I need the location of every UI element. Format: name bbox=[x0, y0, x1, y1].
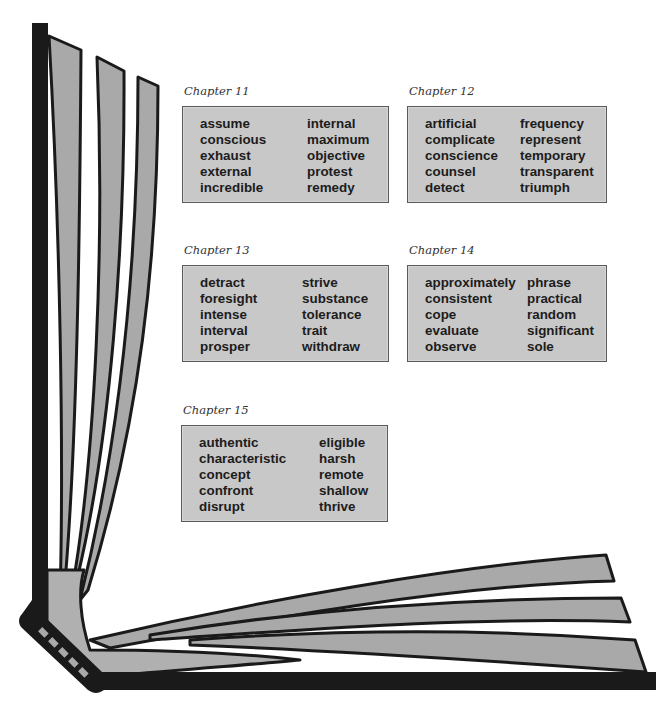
word-column-left: authentic characteristic concept confron… bbox=[199, 435, 286, 515]
vocab-word: authentic bbox=[199, 435, 286, 451]
vocab-word: trait bbox=[302, 323, 368, 339]
word-column-right: frequency represent temporary transparen… bbox=[520, 116, 594, 196]
vocab-word: exhaust bbox=[200, 148, 266, 164]
word-column-left: detract foresight intense interval prosp… bbox=[200, 275, 257, 355]
vocab-word: counsel bbox=[425, 164, 498, 180]
vocab-word: complicate bbox=[425, 132, 498, 148]
chapter-label: Chapter 14 bbox=[409, 243, 475, 257]
vocabulary-box: detract foresight intense interval prosp… bbox=[182, 265, 389, 362]
page-strand-left-1 bbox=[49, 36, 81, 600]
vocab-word: observe bbox=[425, 339, 516, 355]
word-column-right: internal maximum objective protest remed… bbox=[307, 116, 370, 196]
vocab-word: substance bbox=[302, 291, 368, 307]
vocab-word: foresight bbox=[200, 291, 257, 307]
page-strand-bottom-3 bbox=[190, 632, 646, 672]
vocab-word: remedy bbox=[307, 180, 370, 196]
vocab-word: harsh bbox=[319, 451, 368, 467]
vocab-word: external bbox=[200, 164, 266, 180]
vocab-word: strive bbox=[302, 275, 368, 291]
vocab-word: sole bbox=[527, 339, 594, 355]
vocab-word: temporary bbox=[520, 148, 594, 164]
vocabulary-box: approximately consistent cope evaluate o… bbox=[407, 265, 607, 362]
vocab-word: thrive bbox=[319, 499, 368, 515]
vocab-word: triumph bbox=[520, 180, 594, 196]
chapter-label: Chapter 12 bbox=[409, 84, 475, 98]
vocab-word: withdraw bbox=[302, 339, 368, 355]
vocab-word: intense bbox=[200, 307, 257, 323]
word-column-right: eligible harsh remote shallow thrive bbox=[319, 435, 368, 515]
vocab-word: cope bbox=[425, 307, 516, 323]
vocab-word: detract bbox=[200, 275, 257, 291]
vocab-word: frequency bbox=[520, 116, 594, 132]
chapter-label: Chapter 15 bbox=[183, 403, 249, 417]
chapter-label: Chapter 13 bbox=[184, 243, 250, 257]
chapter-label: Chapter 11 bbox=[184, 84, 250, 98]
vocab-word: represent bbox=[520, 132, 594, 148]
vocab-word: concept bbox=[199, 467, 286, 483]
vocab-word: conscience bbox=[425, 148, 498, 164]
vocab-word: assume bbox=[200, 116, 266, 132]
vocab-word: internal bbox=[307, 116, 370, 132]
vocab-word: incredible bbox=[200, 180, 266, 196]
vocab-word: maximum bbox=[307, 132, 370, 148]
vocab-word: phrase bbox=[527, 275, 594, 291]
word-column-left: artificial complicate conscience counsel… bbox=[425, 116, 498, 196]
vocab-word: significant bbox=[527, 323, 594, 339]
vocabulary-box: artificial complicate conscience counsel… bbox=[407, 106, 607, 203]
vocab-word: detect bbox=[425, 180, 498, 196]
vocab-word: transparent bbox=[520, 164, 594, 180]
vocab-word: eligible bbox=[319, 435, 368, 451]
word-column-left: assume conscious exhaust external incred… bbox=[200, 116, 266, 196]
vocabulary-box: authentic characteristic concept confron… bbox=[181, 425, 388, 522]
word-column-right: strive substance tolerance trait withdra… bbox=[302, 275, 368, 355]
vocab-word: shallow bbox=[319, 483, 368, 499]
vocab-word: confront bbox=[199, 483, 286, 499]
vocab-word: objective bbox=[307, 148, 370, 164]
vocab-word: disrupt bbox=[199, 499, 286, 515]
word-column-left: approximately consistent cope evaluate o… bbox=[425, 275, 516, 355]
vocab-word: conscious bbox=[200, 132, 266, 148]
vocab-word: consistent bbox=[425, 291, 516, 307]
vocab-word: tolerance bbox=[302, 307, 368, 323]
vocab-word: protest bbox=[307, 164, 370, 180]
vocab-word: evaluate bbox=[425, 323, 516, 339]
vocab-word: remote bbox=[319, 467, 368, 483]
vocab-word: approximately bbox=[425, 275, 516, 291]
word-column-right: phrase practical random significant sole bbox=[527, 275, 594, 355]
vocab-word: artificial bbox=[425, 116, 498, 132]
vocab-word: random bbox=[527, 307, 594, 323]
vocab-word: interval bbox=[200, 323, 257, 339]
vocabulary-box: assume conscious exhaust external incred… bbox=[182, 106, 389, 203]
vocab-word: practical bbox=[527, 291, 594, 307]
vocab-word: characteristic bbox=[199, 451, 286, 467]
vocab-word: prosper bbox=[200, 339, 257, 355]
